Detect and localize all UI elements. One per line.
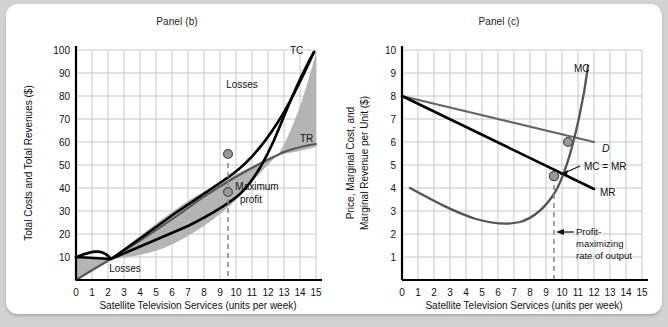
panel-b-xtick: 3 <box>121 287 127 298</box>
panel-b-ytick: 80 <box>59 91 71 102</box>
panel-c-ytick: 6 <box>390 137 396 148</box>
panel-c-mc-mr-arrow-icon <box>560 166 580 175</box>
panel-b-ytick: 40 <box>59 183 71 194</box>
panel-c-x-tick-labels: 0 1 2 3 4 5 6 7 8 9 10 11 12 13 14 15 <box>399 287 648 298</box>
panel-b-xtick: 8 <box>201 287 207 298</box>
panel-b-marker-tc <box>224 188 233 197</box>
panel-b-xtick: 11 <box>247 287 258 298</box>
panel-b-xtick: 13 <box>278 287 290 298</box>
panel-c-y-axis-title-line1: Price, Marginal Cost, and <box>345 107 356 219</box>
panel-b-label-tc: TC <box>290 45 303 56</box>
panel-c-y-axis-title-line2: Marginal Revenue per Unit ($) <box>359 96 370 230</box>
panel-b-ytick: 60 <box>59 137 71 148</box>
panel-b-x-tick-labels: 0 1 2 3 4 5 6 7 8 9 10 11 12 13 14 15 <box>73 287 322 298</box>
panel-c-xtick: 1 <box>415 287 421 298</box>
panel-b-xtick: 1 <box>89 287 95 298</box>
panel-c-xtick: 6 <box>495 287 501 298</box>
panel-c-xtick: 15 <box>636 287 648 298</box>
panel-b-xtick: 2 <box>105 287 111 298</box>
panel-b-ytick: 30 <box>59 206 71 217</box>
panel-c-label-mr: MR <box>600 187 616 198</box>
panel-c-xtick: 0 <box>399 287 405 298</box>
panel-c-chart: 10 9 8 7 6 5 4 3 2 1 0 1 2 3 4 <box>336 4 662 314</box>
panel-b-label-losses-top: Losses <box>226 79 258 90</box>
panel-b-ytick: 70 <box>59 114 71 125</box>
panel-c-xtick: 4 <box>463 287 469 298</box>
panel-c-ytick: 1 <box>390 252 396 263</box>
panel-c-xtick: 5 <box>479 287 485 298</box>
panel-b-xtick: 6 <box>169 287 175 298</box>
panel-c-label-mc-eq-mr: MC = MR <box>584 161 627 172</box>
figure-page: Panel (b) <box>0 0 668 327</box>
panel-c-marker-mc-mr <box>549 171 558 180</box>
panel-b-chart: 100 90 80 70 60 50 40 30 20 10 0 1 2 3 <box>12 4 342 314</box>
panel-b-xtick: 0 <box>73 287 79 298</box>
panel-b-ytick: 10 <box>59 252 71 263</box>
panel-c-ytick: 9 <box>390 68 396 79</box>
panel-b-xtick: 15 <box>310 287 322 298</box>
panel-b-xtick: 10 <box>230 287 242 298</box>
panel-b-xtick: 9 <box>217 287 223 298</box>
panel-c-xtick: 11 <box>573 287 584 298</box>
panel-b-label-max-profit-2: profit <box>240 194 262 205</box>
panel-b-ytick: 50 <box>59 160 71 171</box>
panel-b-xtick: 4 <box>137 287 143 298</box>
panel-c-label-profit-1: Profit- <box>576 226 601 237</box>
panel-c-xtick: 13 <box>604 287 616 298</box>
panel-c-xtick: 14 <box>620 287 632 298</box>
panel-b-xtick: 7 <box>185 287 191 298</box>
panel-b-gridlines <box>76 50 316 280</box>
panel-c: Panel (c) <box>336 4 662 314</box>
panel-c-ytick: 8 <box>390 91 396 102</box>
panel-c-mc-curve <box>410 66 588 224</box>
panel-c-ytick: 5 <box>390 160 396 171</box>
panel-c-marker-price <box>564 138 573 147</box>
panel-b: Panel (b) <box>12 4 342 314</box>
panel-b-xtick: 12 <box>262 287 274 298</box>
panel-c-xtick: 7 <box>511 287 517 298</box>
panel-c-xtick: 12 <box>588 287 600 298</box>
panel-c-ytick: 2 <box>390 229 396 240</box>
panel-b-ytick: 100 <box>53 45 70 56</box>
panel-b-y-axis-title: Total Costs and Total Revenues ($) <box>23 85 34 240</box>
panel-b-ytick: 20 <box>59 229 71 240</box>
panel-c-xtick: 2 <box>431 287 437 298</box>
panel-c-y-tick-labels: 10 9 8 7 6 5 4 3 2 1 <box>385 45 397 263</box>
panel-b-xtick: 5 <box>153 287 159 298</box>
panel-b-xtick: 14 <box>294 287 306 298</box>
panel-b-label-tr: TR <box>300 133 313 144</box>
panel-c-label-profit-2: maximizing <box>576 238 624 249</box>
panel-c-ytick: 7 <box>390 114 396 125</box>
panel-c-xtick: 9 <box>543 287 549 298</box>
panel-c-xtick: 8 <box>527 287 533 298</box>
panel-b-label-max-profit-1: Maximum <box>235 181 278 192</box>
panel-c-ytick: 10 <box>385 45 397 56</box>
panel-c-label-mc: MC <box>574 63 590 74</box>
panel-c-xtick: 3 <box>447 287 453 298</box>
panel-c-x-axis-title: Satellite Television Services (units per… <box>425 300 622 311</box>
panel-b-x-axis-title: Satellite Television Services (units per… <box>99 300 296 311</box>
panel-b-marker-tr <box>224 150 233 159</box>
panel-b-ytick: 90 <box>59 68 71 79</box>
panel-b-y-tick-labels: 100 90 80 70 60 50 40 30 20 10 <box>53 45 70 263</box>
panel-c-ytick: 3 <box>390 206 396 217</box>
panel-c-xtick: 10 <box>556 287 568 298</box>
figure-card: Panel (b) <box>6 4 662 314</box>
panel-c-label-d: D <box>602 142 610 154</box>
panel-c-label-profit-3: rate of output <box>576 250 632 261</box>
panel-b-label-losses-bottom: Losses <box>109 263 141 274</box>
panel-c-ytick: 4 <box>390 183 396 194</box>
